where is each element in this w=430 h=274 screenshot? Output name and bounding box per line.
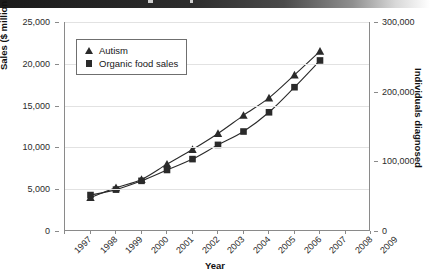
x-axis-tick-mark	[141, 231, 142, 234]
data-point-square[interactable]	[317, 57, 324, 64]
right-axis-tick-mark	[374, 22, 378, 23]
left-axis-tick-label: 5,000	[27, 185, 50, 194]
right-axis-tick-label: 300,000	[382, 18, 415, 27]
left-axis-tick-label: 10,000	[22, 143, 50, 152]
x-axis-tick-mark	[243, 231, 244, 234]
triangle-marker	[83, 47, 95, 54]
data-point-square[interactable]	[164, 167, 171, 174]
left-axis-tick-mark	[55, 106, 59, 107]
right-axis-tick-mark	[374, 161, 378, 162]
x-axis-tick-label: 1997	[73, 235, 94, 256]
right-axis-tick-label: 200,000	[382, 87, 415, 96]
right-axis-tick-mark	[374, 92, 378, 93]
legend-item-label: Autism	[99, 46, 128, 56]
series-line	[91, 60, 321, 195]
data-point-square[interactable]	[189, 156, 196, 163]
left-axis-tick-mark	[55, 189, 59, 190]
left-axis-ticks: 05,00010,00015,00020,00025,000	[0, 22, 59, 231]
chart-figure: Sales ($ millions) Individuals diagnosed…	[0, 8, 430, 274]
legend-item-label: Organic food sales	[99, 59, 178, 69]
data-point-square[interactable]	[291, 84, 298, 91]
x-axis-tick-label: 2006	[302, 235, 323, 256]
data-point-triangle[interactable]	[239, 111, 247, 119]
x-axis-tick-label: 2007	[328, 235, 349, 256]
left-axis-tick-mark	[55, 147, 59, 148]
left-axis-tick-label: 25,000	[22, 18, 50, 27]
x-axis-tick-mark	[192, 231, 193, 234]
x-axis-tick-mark	[217, 231, 218, 234]
x-axis-tick-label: 2000	[149, 235, 170, 256]
x-axis-tick-mark	[294, 231, 295, 234]
x-axis-tick-mark	[319, 231, 320, 234]
x-axis-tick-label: 1999	[124, 235, 145, 256]
gridline	[65, 106, 369, 107]
x-axis-tick-label: 2009	[379, 235, 400, 256]
series-organic-food-sales	[87, 57, 323, 198]
x-axis-tick-label: 2002	[200, 235, 221, 256]
data-point-square[interactable]	[87, 192, 94, 199]
left-axis-tick-label: 20,000	[22, 59, 50, 68]
data-point-square[interactable]	[138, 178, 145, 185]
x-axis-tick-mark	[166, 231, 167, 234]
legend-item[interactable]: Autism	[83, 44, 178, 57]
square-marker	[83, 60, 95, 67]
right-axis-ticks: 0100,000200,000300,000	[374, 22, 430, 231]
gridline	[65, 147, 369, 148]
x-axis-tick-label: 1998	[98, 235, 119, 256]
chart-legend: AutismOrganic food sales	[76, 39, 187, 75]
data-point-square[interactable]	[240, 128, 247, 135]
page-banner-strip	[0, 0, 430, 8]
x-axis-tick-label: 2004	[251, 235, 272, 256]
data-point-square[interactable]	[266, 109, 273, 116]
x-axis-title: Year	[0, 260, 430, 271]
x-axis-tick-mark	[115, 231, 116, 234]
left-axis-tick-label: 15,000	[22, 101, 50, 110]
gridline	[65, 22, 369, 23]
x-axis-tick-mark	[370, 231, 371, 234]
data-point-triangle[interactable]	[163, 160, 171, 168]
banner-notch	[190, 0, 193, 3]
legend-item[interactable]: Organic food sales	[83, 57, 178, 70]
banner-notch	[148, 0, 153, 3]
gridline	[65, 189, 369, 190]
left-axis-tick-mark	[55, 64, 59, 65]
x-axis-tick-label: 2005	[277, 235, 298, 256]
left-axis-tick-mark	[55, 22, 59, 23]
right-axis-tick-label: 100,000	[382, 157, 415, 166]
data-point-triangle[interactable]	[214, 129, 222, 137]
data-point-triangle[interactable]	[316, 47, 324, 55]
x-axis-tick-label: 2008	[353, 235, 374, 256]
x-axis-tick-mark	[345, 231, 346, 234]
x-axis-tick-label: 2001	[175, 235, 196, 256]
x-axis-tick-mark	[268, 231, 269, 234]
x-axis-tick-mark	[90, 231, 91, 234]
x-axis-tick-mark	[64, 231, 65, 234]
x-axis-tick-label: 2003	[226, 235, 247, 256]
